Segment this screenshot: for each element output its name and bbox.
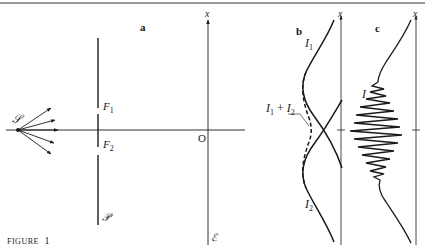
caption-word: FIGURE — [7, 237, 39, 246]
sum-plus: + — [277, 101, 284, 115]
curve-i2-label: I2 — [305, 198, 313, 213]
panel-c-diagram — [350, 16, 420, 245]
screen-label: ℰ — [211, 233, 217, 243]
sum-label: I1 + I2 — [266, 102, 295, 117]
curve-interference — [350, 20, 411, 243]
source-label: 𝒮 — [12, 113, 21, 125]
panel-c-label: c — [375, 23, 380, 34]
curve-i1-label: I1 — [305, 37, 313, 52]
panel-c-axis-label: x — [413, 9, 417, 19]
panel-a-axis-label: x — [205, 9, 209, 19]
figure-caption: FIGURE 1 — [7, 236, 50, 246]
sum-i2-subscript: 2 — [291, 108, 295, 117]
figure-canvas — [0, 0, 425, 250]
slit-f2-subscript: 2 — [110, 144, 114, 153]
slit-f2-letter: F — [103, 138, 110, 150]
barrier-label: 𝒫 — [102, 212, 110, 223]
slit-f1-letter: F — [103, 100, 110, 112]
curve-sum-dashed — [303, 72, 312, 188]
origin-label: O — [198, 133, 206, 144]
slit-f1-subscript: 1 — [110, 106, 114, 115]
caption-number: 1 — [44, 235, 50, 246]
panel-b-label: b — [296, 26, 302, 37]
curve-i-label: I — [362, 88, 366, 100]
slit-f1-label: F1 — [103, 101, 114, 115]
curve-i1-subscript: 1 — [309, 43, 313, 52]
curve-i2 — [303, 100, 342, 242]
curve-i2-subscript: 2 — [309, 204, 313, 213]
slit-f2-label: F2 — [103, 139, 114, 153]
sum-i1-subscript: 1 — [270, 108, 274, 117]
panel-a-label: a — [140, 22, 146, 33]
panel-b-diagram — [288, 16, 345, 245]
panel-b-axis-label: x — [338, 9, 342, 19]
source-rays-icon — [16, 108, 58, 154]
panel-a-diagram — [6, 20, 245, 245]
